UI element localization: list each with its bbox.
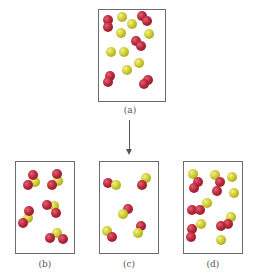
yellow-atom-icon: [134, 58, 144, 68]
red-atom-icon: [186, 232, 196, 242]
yellow-atom-icon: [118, 209, 128, 219]
yellow-atom-icon: [127, 19, 137, 29]
red-atom-icon: [195, 205, 205, 215]
yellow-atom-icon: [111, 180, 121, 190]
red-atom-icon: [107, 232, 117, 242]
red-atom-icon: [136, 41, 146, 51]
red-atom-icon: [52, 169, 62, 179]
yellow-atom-icon: [106, 47, 116, 57]
panel-d-label: (d): [193, 259, 233, 269]
panel-c-label: (c): [109, 259, 149, 269]
yellow-atom-icon: [144, 29, 154, 39]
yellow-atom-icon: [122, 65, 132, 75]
red-atom-icon: [51, 208, 61, 218]
red-atom-icon: [24, 206, 34, 216]
red-atom-icon: [103, 77, 113, 87]
red-atom-icon: [189, 183, 199, 193]
red-atom-icon: [47, 180, 57, 190]
yellow-atom-icon: [196, 219, 206, 229]
red-atom-icon: [58, 234, 68, 244]
red-atom-icon: [212, 186, 222, 196]
red-atom-icon: [18, 218, 28, 228]
yellow-atom-icon: [119, 47, 129, 57]
red-atom-icon: [137, 180, 147, 190]
red-atom-icon: [139, 79, 149, 89]
red-atom-icon: [103, 22, 113, 32]
red-atom-icon: [23, 180, 33, 190]
red-atom-icon: [28, 170, 38, 180]
red-atom-icon: [142, 16, 152, 26]
reaction-arrow-down-icon: [126, 149, 132, 155]
yellow-atom-icon: [117, 12, 127, 22]
red-atom-icon: [45, 233, 55, 243]
yellow-atom-icon: [227, 172, 237, 182]
panel-a-label: (a): [110, 105, 150, 115]
yellow-atom-icon: [229, 188, 239, 198]
red-atom-icon: [42, 200, 52, 210]
red-atom-icon: [216, 221, 226, 231]
yellow-atom-icon: [216, 235, 226, 245]
panel-b-label: (b): [25, 259, 65, 269]
yellow-atom-icon: [133, 228, 143, 238]
yellow-atom-icon: [116, 28, 126, 38]
reaction-arrow-shaft: [129, 120, 130, 150]
